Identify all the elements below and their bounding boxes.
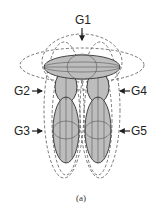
hand-model-diagram: G1 G2 G3 G4 G5 (a): [0, 0, 163, 215]
label-g3: G3: [14, 124, 30, 138]
label-g4: G4: [131, 84, 147, 98]
right-finger: [85, 71, 111, 163]
label-g2: G2: [14, 84, 30, 98]
palm-ellipsoid: [44, 54, 120, 80]
label-g1: G1: [75, 13, 91, 27]
figure-caption: (a): [76, 193, 86, 203]
label-g5: G5: [131, 124, 147, 138]
left-finger: [53, 71, 79, 163]
